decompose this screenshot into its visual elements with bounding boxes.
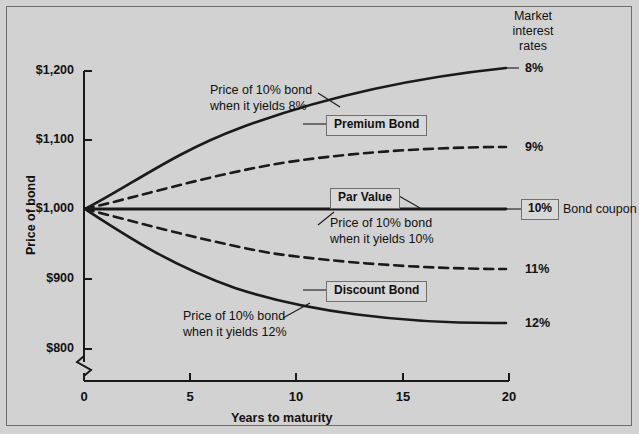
x-tick-label-0: 0 — [64, 389, 104, 404]
callout-premium-bond: Premium Bond — [326, 115, 427, 136]
leader-8pct-annotation — [318, 93, 340, 107]
callout-discount-bond: Discount Bond — [326, 281, 427, 302]
annotation-12pct-line-1: Price of 10% bond — [183, 308, 285, 325]
bond-price-chart-figure: $1,200 $1,100 $1,000 $900 $800 Price of … — [0, 0, 639, 434]
rate-label-11pct: 11% — [525, 262, 549, 277]
y-tick-label-1100: $1,100 — [8, 132, 74, 147]
x-axis-title: Years to maturity — [231, 411, 332, 426]
annotation-10pct-line-1: Price of 10% bond — [330, 215, 432, 232]
rate-label-9pct: 9% — [525, 140, 543, 155]
annotation-8pct-line-1: Price of 10% bond — [210, 82, 312, 99]
rate-label-12pct: 12% — [525, 316, 550, 331]
y-tick-label-900: $900 — [8, 271, 74, 286]
callout-par-value: Par Value — [330, 188, 400, 209]
series-curve-9pct — [85, 147, 506, 209]
legend-header-line-3: rates — [497, 38, 569, 55]
series-curve-11pct — [85, 209, 506, 269]
annotation-12pct-line-2: when it yields 12% — [183, 324, 287, 341]
x-tick-label-15: 15 — [383, 389, 423, 404]
y-tick-label-800: $800 — [8, 341, 74, 356]
y-tick-label-1200: $1,200 — [8, 63, 74, 78]
y-axis-title: Price of bond — [24, 175, 39, 255]
x-tick-label-20: 20 — [489, 389, 529, 404]
annotation-8pct-line-2: when it yields 8% — [210, 98, 307, 115]
y-axis — [77, 71, 92, 381]
x-tick-label-10: 10 — [276, 389, 316, 404]
y-tick-label-1000: $1,000 — [8, 201, 74, 216]
annotation-10pct-line-2: when it yields 10% — [330, 231, 434, 248]
bond-coupon-label: Bond coupon — [563, 202, 637, 217]
bond-coupon-value-box: 10% — [521, 199, 559, 220]
x-tick-label-5: 5 — [170, 389, 210, 404]
x-axis — [84, 373, 509, 381]
rate-label-8pct: 8% — [525, 61, 543, 76]
